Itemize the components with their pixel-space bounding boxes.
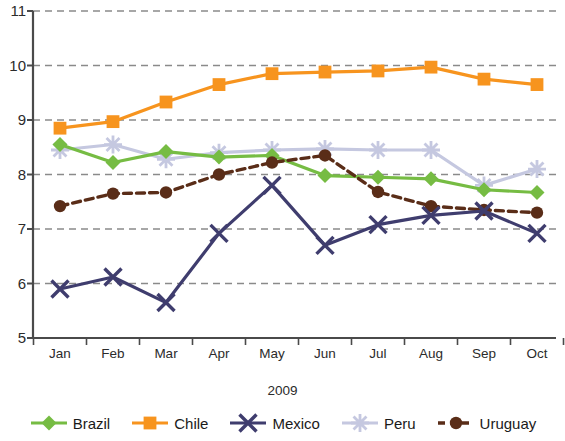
data-point-marker <box>54 200 66 212</box>
series-line <box>60 185 537 302</box>
data-point-marker <box>318 168 333 183</box>
data-point-marker <box>107 187 119 199</box>
data-point-marker <box>528 160 546 178</box>
legend-item-chile[interactable]: Chile <box>130 412 208 434</box>
legend-swatch-chile <box>130 412 170 434</box>
data-point-marker <box>158 294 175 311</box>
x-axis-tick-label: May <box>245 347 299 361</box>
data-point-marker <box>160 96 173 109</box>
data-point-marker <box>264 177 281 194</box>
legend-swatch-brazil <box>29 412 69 434</box>
series-chile <box>54 61 544 135</box>
data-point-marker <box>160 186 172 198</box>
x-axis-tick-label: Jun <box>298 347 352 361</box>
data-point-marker <box>425 61 438 74</box>
y-axis-tick-label: 5 <box>2 330 26 345</box>
legend-item-uruguay[interactable]: Uruguay <box>436 412 537 434</box>
x-axis-tick-label: Apr <box>192 347 246 361</box>
data-point-marker <box>107 115 120 128</box>
legend-item-peru[interactable]: Peru <box>340 412 416 434</box>
data-point-marker <box>372 186 384 198</box>
series-line <box>60 67 537 128</box>
x-axis-tick-label: Jul <box>351 347 405 361</box>
plot-area <box>0 0 565 441</box>
data-point-marker <box>317 237 334 254</box>
data-point-marker <box>319 66 332 79</box>
y-axis-tick-label: 11 <box>2 3 26 18</box>
x-axis-tick-label: Aug <box>404 347 458 361</box>
data-point-marker <box>369 141 387 159</box>
data-point-marker <box>266 67 279 80</box>
chart-legend: BrazilChileMexicoPeruUruguay <box>0 412 565 434</box>
line-chart: 567891011 JanFebMarAprMayJunJulAugSepOct… <box>0 0 565 441</box>
y-axis-tick-label: 9 <box>2 112 26 127</box>
legend-label: Mexico <box>272 415 320 432</box>
series-brazil <box>53 137 545 200</box>
legend-swatch-mexico <box>228 412 268 434</box>
legend-label: Peru <box>384 415 416 432</box>
x-axis-title: 2009 <box>0 383 565 398</box>
legend-label: Brazil <box>73 415 111 432</box>
legend-swatch-peru <box>340 412 380 434</box>
data-point-marker <box>266 156 278 168</box>
legend-item-mexico[interactable]: Mexico <box>228 412 320 434</box>
data-point-marker <box>449 417 461 429</box>
data-point-marker <box>424 171 439 186</box>
data-point-marker <box>144 417 157 430</box>
legend-swatch-uruguay <box>436 412 476 434</box>
data-point-marker <box>531 206 543 218</box>
data-point-marker <box>54 122 67 135</box>
data-point-marker <box>531 78 544 91</box>
data-point-marker <box>371 170 386 185</box>
data-point-marker <box>319 149 331 161</box>
x-axis-tick-label: Sep <box>457 347 511 361</box>
data-point-marker <box>106 155 121 170</box>
legend-item-brazil[interactable]: Brazil <box>29 412 111 434</box>
legend-label: Uruguay <box>480 415 537 432</box>
data-point-marker <box>372 65 385 78</box>
data-point-marker <box>478 73 491 86</box>
series-line <box>60 145 537 193</box>
data-point-marker <box>211 225 228 242</box>
data-point-marker <box>104 136 122 154</box>
data-point-marker <box>529 225 546 242</box>
legend-label: Chile <box>174 415 208 432</box>
y-axis-tick-label: 7 <box>2 221 26 236</box>
data-point-marker <box>41 416 56 431</box>
data-point-marker <box>351 414 369 432</box>
y-axis-tick-label: 8 <box>2 167 26 182</box>
data-point-marker <box>213 78 226 91</box>
x-axis-tick-label: Mar <box>139 347 193 361</box>
y-axis-tick-label: 10 <box>2 58 26 73</box>
series-mexico <box>52 177 546 311</box>
x-axis-tick-label: Feb <box>86 347 140 361</box>
x-axis-tick-label: Jan <box>33 347 87 361</box>
data-point-marker <box>530 185 545 200</box>
x-axis-tick-label: Oct <box>510 347 564 361</box>
data-point-marker <box>422 141 440 159</box>
y-axis-tick-label: 6 <box>2 276 26 291</box>
data-point-marker <box>213 168 225 180</box>
